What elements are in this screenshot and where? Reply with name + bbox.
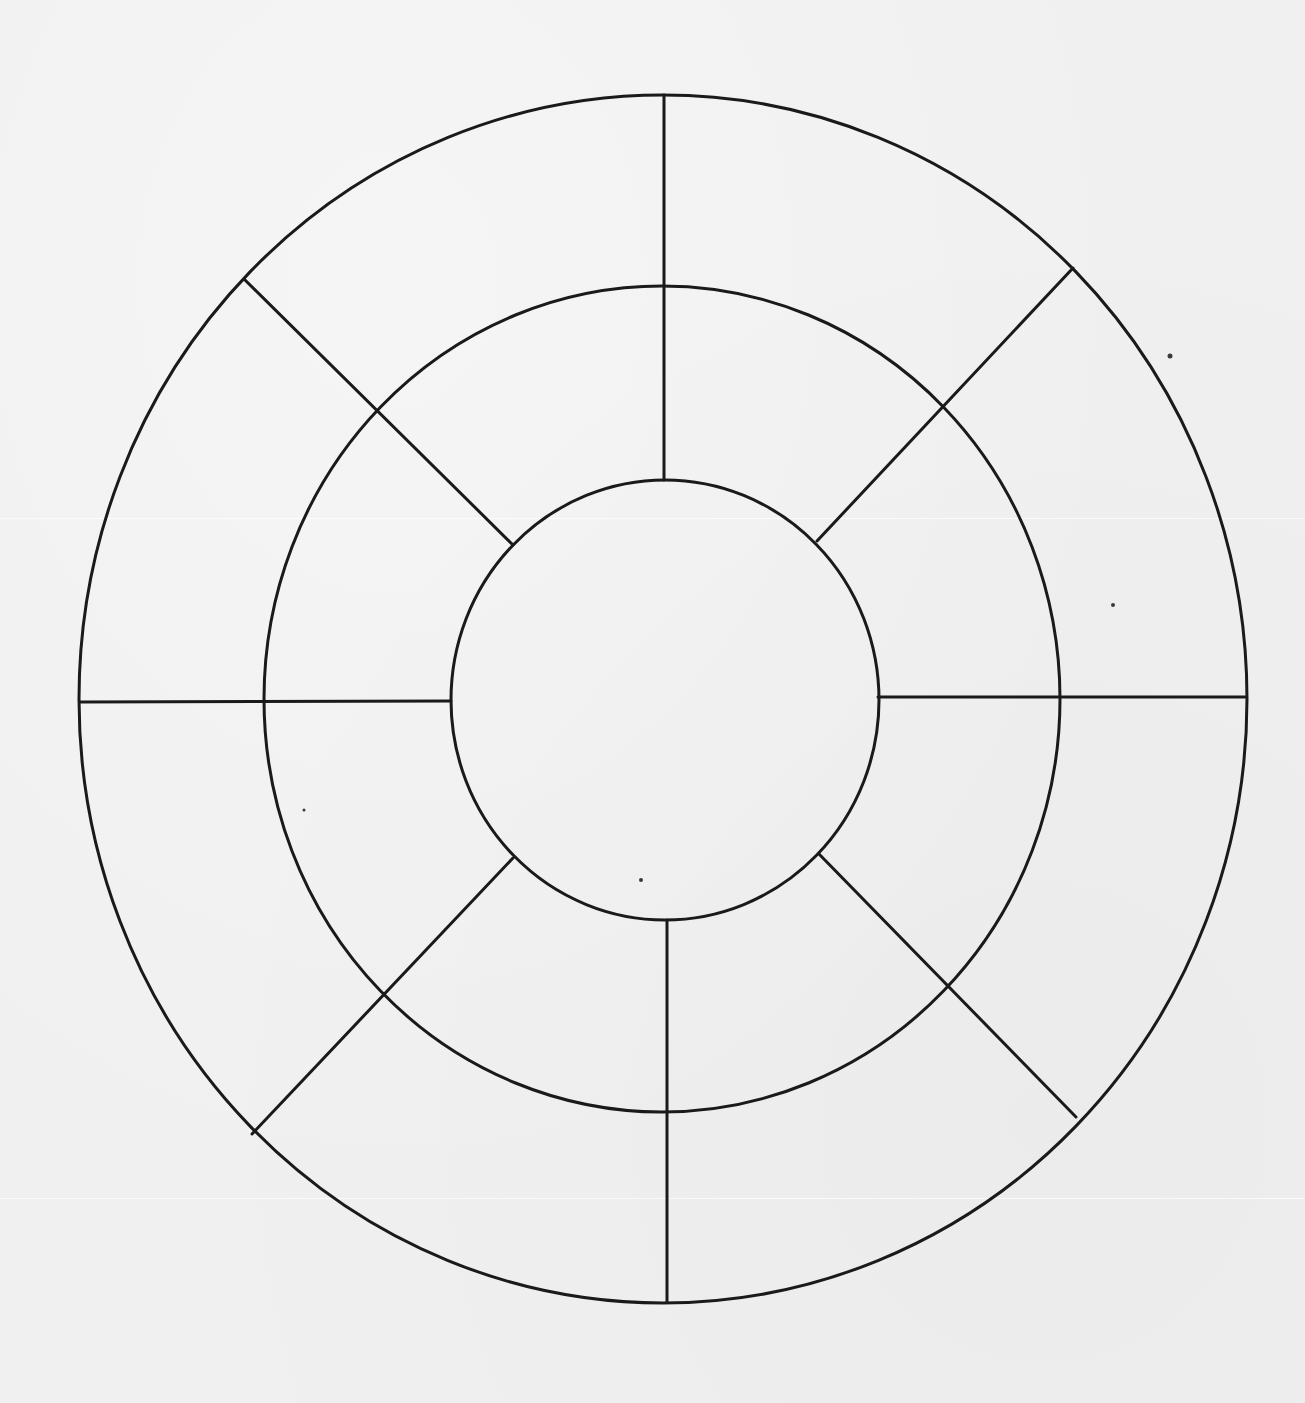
- inner-circle: [451, 480, 879, 920]
- concentric-wheel-diagram: [0, 0, 1305, 1403]
- spoke-top-left: [244, 279, 513, 545]
- paper-page: [0, 0, 1305, 1403]
- spoke-top-right: [817, 268, 1073, 541]
- scan-specks: [303, 354, 1173, 883]
- spoke-bottom-right: [819, 854, 1076, 1117]
- spoke-left: [80, 701, 451, 702]
- spoke-bottom-left: [252, 858, 513, 1134]
